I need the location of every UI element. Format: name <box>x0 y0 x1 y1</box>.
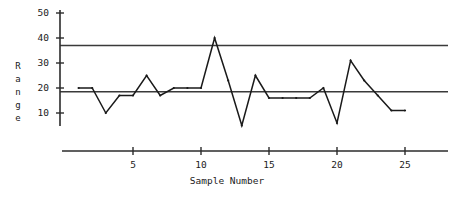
data-point <box>390 109 392 111</box>
x-axis-tick-label: 10 <box>190 160 212 170</box>
range-control-chart: R a n g e 1020304050 510152025 Sample Nu… <box>0 0 454 199</box>
x-axis-tick-label: 20 <box>326 160 348 170</box>
data-point <box>132 94 134 96</box>
y-axis-title-letter-3: g <box>8 99 28 112</box>
data-point <box>241 124 243 126</box>
y-axis-title: R a n g e <box>8 60 28 125</box>
y-axis-title-letter-4: e <box>8 112 28 125</box>
data-point <box>91 87 93 89</box>
x-axis <box>62 147 448 155</box>
range-polyline <box>79 38 405 126</box>
control-limit-lines <box>60 46 448 92</box>
data-point <box>118 94 120 96</box>
chart-plot-area <box>0 0 454 199</box>
data-point <box>295 97 297 99</box>
y-axis-tick-label: 10 <box>27 108 49 118</box>
range-series-markers <box>78 37 407 127</box>
y-axis-tick-label: 40 <box>27 33 49 43</box>
data-point <box>214 37 216 39</box>
data-point <box>105 112 107 114</box>
data-point <box>200 87 202 89</box>
data-point <box>363 79 365 81</box>
data-point <box>404 109 406 111</box>
x-axis-tick-label: 25 <box>394 160 416 170</box>
y-axis-title-letter-2: n <box>8 86 28 99</box>
x-axis-title: Sample Number <box>0 175 454 186</box>
data-point <box>186 87 188 89</box>
data-point <box>309 97 311 99</box>
data-point <box>254 74 256 76</box>
data-point <box>350 59 352 61</box>
data-point <box>78 87 80 89</box>
data-point <box>377 94 379 96</box>
x-axis-tick-label: 5 <box>122 160 144 170</box>
data-point <box>322 87 324 89</box>
data-point <box>173 87 175 89</box>
data-point <box>227 79 229 81</box>
data-point <box>146 74 148 76</box>
y-axis <box>56 10 64 126</box>
range-series-line <box>79 38 405 126</box>
y-axis-title-letter-0: R <box>8 60 28 73</box>
y-axis-tick-label: 30 <box>27 58 49 68</box>
data-point <box>159 94 161 96</box>
data-point <box>282 97 284 99</box>
y-axis-tick-label: 20 <box>27 83 49 93</box>
y-axis-tick-label: 50 <box>27 8 49 18</box>
x-axis-tick-label: 15 <box>258 160 280 170</box>
data-point <box>336 122 338 124</box>
y-axis-title-letter-1: a <box>8 73 28 86</box>
data-point <box>268 97 270 99</box>
